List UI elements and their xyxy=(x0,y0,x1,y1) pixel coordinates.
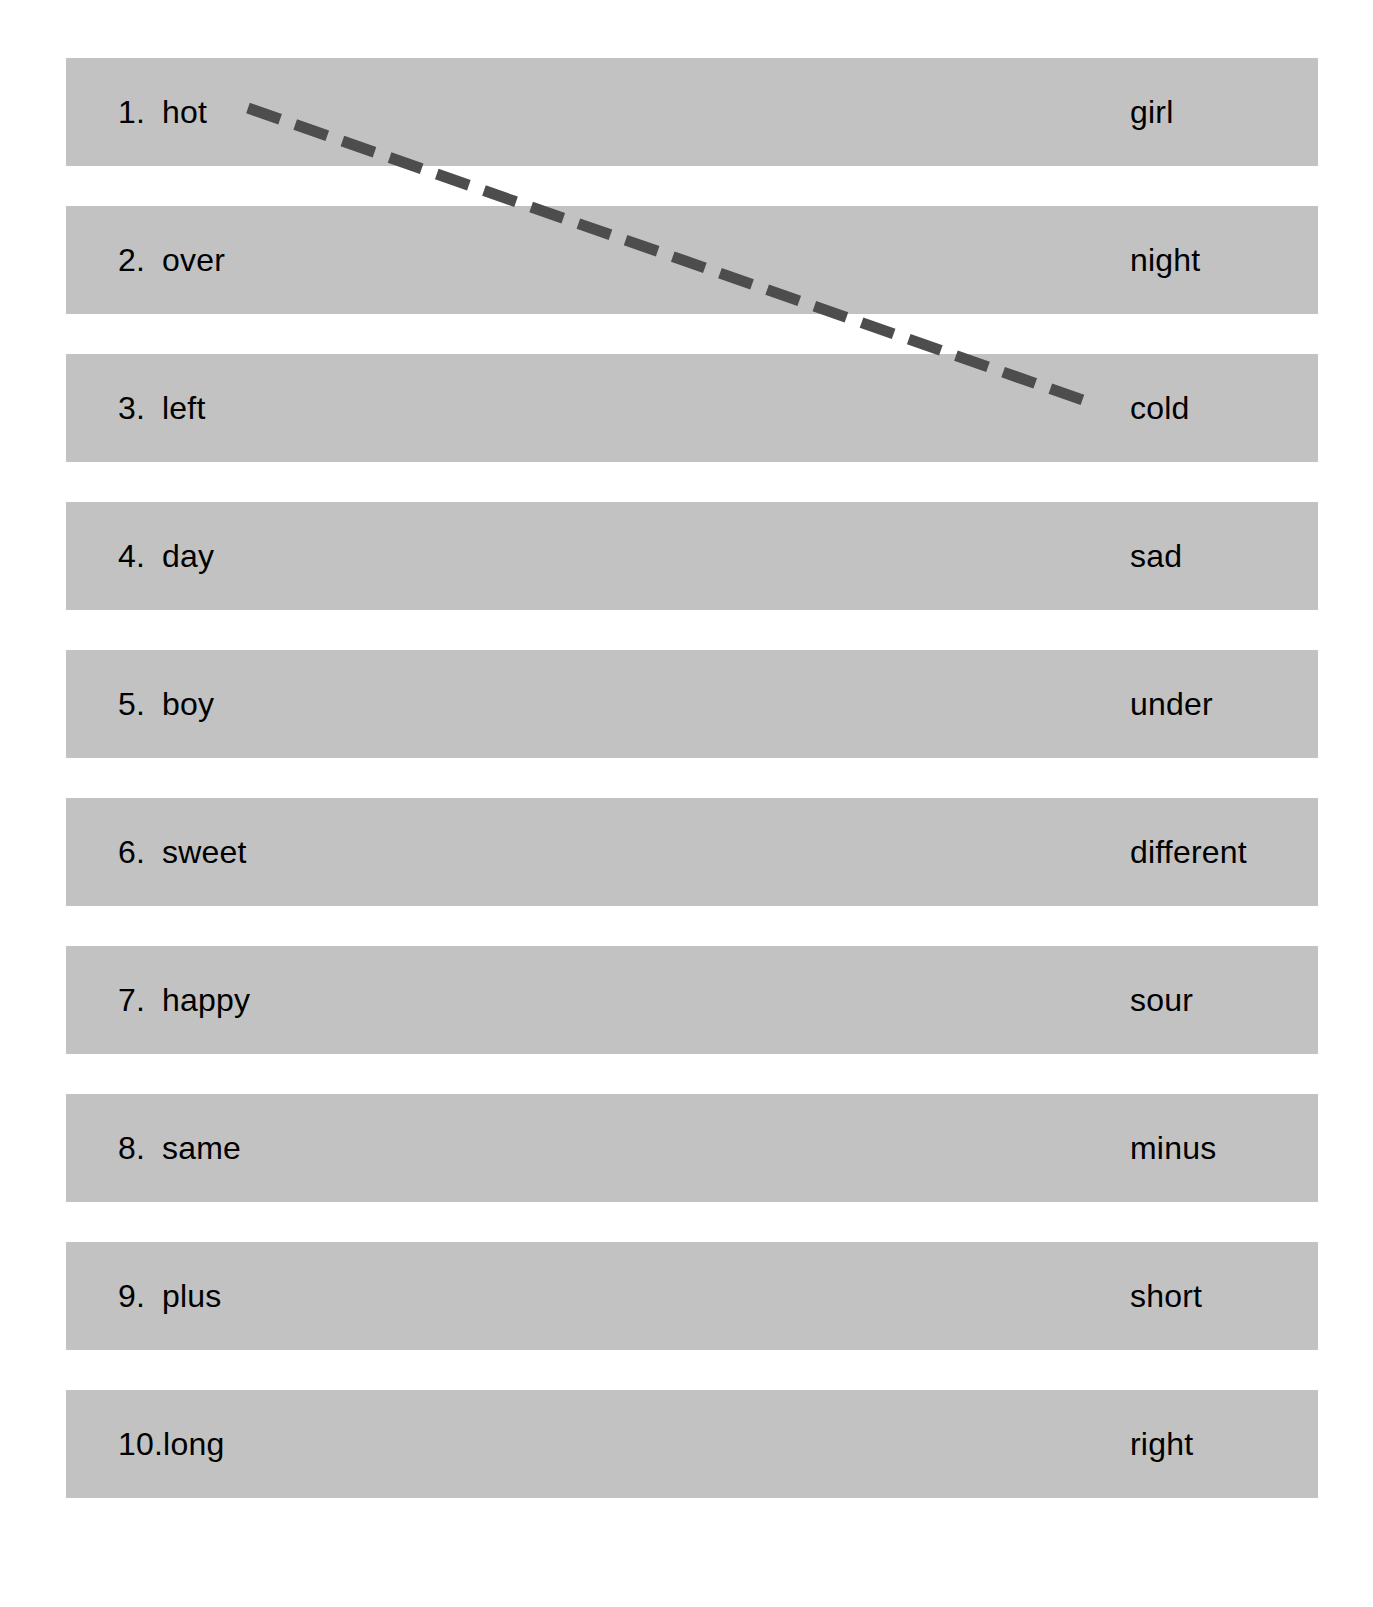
matching-row: 7.happysour xyxy=(66,946,1318,1054)
row-number: 9. xyxy=(118,1280,162,1312)
row-number: 7. xyxy=(118,984,162,1016)
row-prompt[interactable]: 2.over xyxy=(118,244,225,276)
matching-row: 2.overnight xyxy=(66,206,1318,314)
right-word[interactable]: minus xyxy=(1130,1132,1216,1164)
row-number: 6. xyxy=(118,836,162,868)
left-word[interactable]: day xyxy=(162,540,214,572)
matching-row: 6.sweetdifferent xyxy=(66,798,1318,906)
worksheet-page: 1.hotgirl2.overnight3.leftcold4.daysad5.… xyxy=(0,0,1373,1607)
row-prompt[interactable]: 10.long xyxy=(118,1428,224,1460)
left-word[interactable]: left xyxy=(162,392,206,424)
matching-row: 3.leftcold xyxy=(66,354,1318,462)
right-word[interactable]: night xyxy=(1130,244,1200,276)
left-word[interactable]: same xyxy=(162,1132,241,1164)
row-number: 8. xyxy=(118,1132,162,1164)
right-word[interactable]: girl xyxy=(1130,96,1173,128)
left-word[interactable]: happy xyxy=(162,984,250,1016)
row-prompt[interactable]: 7.happy xyxy=(118,984,250,1016)
row-prompt[interactable]: 9.plus xyxy=(118,1280,222,1312)
row-prompt[interactable]: 5.boy xyxy=(118,688,214,720)
right-word[interactable]: right xyxy=(1130,1428,1193,1460)
row-prompt[interactable]: 4.day xyxy=(118,540,214,572)
row-number: 4. xyxy=(118,540,162,572)
matching-row: 9.plusshort xyxy=(66,1242,1318,1350)
matching-row: 4.daysad xyxy=(66,502,1318,610)
left-word[interactable]: sweet xyxy=(162,836,247,868)
right-word[interactable]: sour xyxy=(1130,984,1193,1016)
matching-row-list: 1.hotgirl2.overnight3.leftcold4.daysad5.… xyxy=(0,0,1373,1607)
matching-row: 8.sameminus xyxy=(66,1094,1318,1202)
matching-row: 1.hotgirl xyxy=(66,58,1318,166)
left-word[interactable]: hot xyxy=(162,96,207,128)
right-word[interactable]: short xyxy=(1130,1280,1202,1312)
row-prompt[interactable]: 1.hot xyxy=(118,96,207,128)
row-number: 2. xyxy=(118,244,162,276)
row-prompt[interactable]: 6.sweet xyxy=(118,836,247,868)
right-word[interactable]: cold xyxy=(1130,392,1190,424)
left-word[interactable]: boy xyxy=(162,688,214,720)
row-number: 1. xyxy=(118,96,162,128)
row-number: 5. xyxy=(118,688,162,720)
matching-row: 5.boyunder xyxy=(66,650,1318,758)
row-number: 3. xyxy=(118,392,162,424)
right-word[interactable]: different xyxy=(1130,836,1247,868)
matching-row: 10.longright xyxy=(66,1390,1318,1498)
row-number: 10. xyxy=(118,1428,163,1460)
row-prompt[interactable]: 8.same xyxy=(118,1132,241,1164)
left-word[interactable]: plus xyxy=(162,1280,222,1312)
right-word[interactable]: sad xyxy=(1130,540,1182,572)
row-prompt[interactable]: 3.left xyxy=(118,392,206,424)
right-word[interactable]: under xyxy=(1130,688,1213,720)
left-word[interactable]: long xyxy=(163,1428,224,1460)
left-word[interactable]: over xyxy=(162,244,225,276)
